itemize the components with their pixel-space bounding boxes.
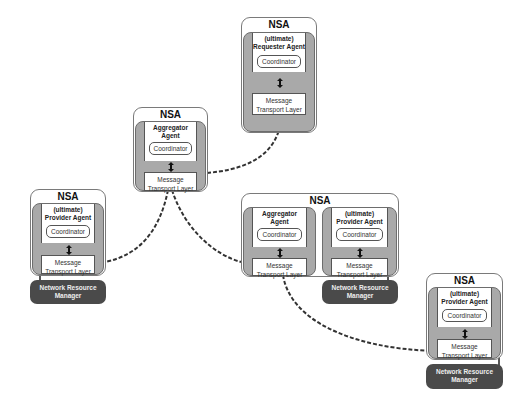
- mtl-line1: Message: [55, 259, 81, 266]
- provider-agent-right: (ultimate)Provider Agent Coordinator Mes…: [428, 287, 501, 359]
- mtl-line1: Message: [346, 262, 372, 269]
- link-aggregator-to-provider-left: [105, 190, 168, 262]
- link-aggregator-to-aggregator-mid: [172, 190, 241, 262]
- double-arrow-icon: [66, 245, 72, 255]
- agent-role: (ultimate)Provider Agent: [42, 206, 94, 222]
- mtl-line1: Message: [266, 97, 292, 104]
- nsa-requester: NSA (ultimate)Requester Agent Coordinato…: [241, 17, 317, 133]
- agent-role: (ultimate)Provider Agent: [332, 210, 387, 226]
- role-line2: Agent: [270, 218, 288, 225]
- message-transport-layer: MessageTransport Layer: [252, 258, 307, 276]
- coordinator: Coordinator: [257, 228, 302, 241]
- provider-agent: (ultimate)Provider Agent Coordinator Mes…: [32, 203, 104, 275]
- mtl-line1: Message: [157, 176, 183, 183]
- provider-agent-mid: (ultimate)Provider Agent Coordinator Mes…: [322, 207, 397, 276]
- coordinator: Coordinator: [46, 225, 90, 238]
- message-transport-layer: MessageTransport Layer: [144, 172, 197, 191]
- nsa-provider-right: NSA (ultimate)Provider Agent Coordinator…: [426, 273, 503, 360]
- double-arrow-icon: [277, 248, 283, 258]
- nrm-line2: Manager: [451, 376, 478, 383]
- requester-agent: (ultimate)Requester Agent Coordinator Me…: [243, 32, 315, 132]
- coordinator: Coordinator: [442, 309, 487, 322]
- message-transport-layer: MessageTransport Layer: [437, 339, 492, 358]
- double-arrow-icon: [168, 162, 174, 172]
- message-transport-layer: MessageTransport Layer: [41, 255, 95, 274]
- role-line1: (ultimate): [264, 35, 293, 42]
- aggregator-agent: AggregatorAgent Coordinator MessageTrans…: [135, 121, 206, 191]
- nsa-title: NSA: [242, 195, 398, 206]
- nsa-title: NSA: [242, 19, 316, 30]
- role-line1: (ultimate): [450, 290, 479, 297]
- nrm-line1: Network Resource: [436, 368, 493, 375]
- mtl-line2: Transport Layer: [148, 185, 194, 192]
- nrm-line2: Manager: [347, 292, 374, 299]
- coordinator: Coordinator: [257, 55, 301, 68]
- mtl-line2: Transport Layer: [337, 271, 383, 278]
- role-line2: Agent: [161, 132, 179, 139]
- double-arrow-icon: [277, 78, 283, 88]
- role-line1: Aggregator: [153, 124, 188, 131]
- agent-role: AggregatorAgent: [145, 124, 196, 140]
- agent-header: AggregatorAgent Coordinator: [252, 208, 307, 247]
- message-transport-layer: MessageTransport Layer: [252, 93, 306, 115]
- nsa-middle: NSA AggregatorAgent Coordinator MessageT…: [241, 193, 399, 277]
- agent-role: AggregatorAgent: [253, 210, 306, 226]
- network-resource-manager-right: Network ResourceManager: [426, 364, 503, 389]
- network-resource-manager-left: Network ResourceManager: [30, 280, 106, 304]
- role-line1: (ultimate): [345, 210, 374, 217]
- mtl-line2: Transport Layer: [442, 352, 488, 359]
- mtl-line1: Message: [266, 262, 292, 269]
- nsa-aggregator-top: NSA AggregatorAgent Coordinator MessageT…: [133, 107, 208, 192]
- nsa-title: NSA: [134, 109, 207, 120]
- role-line2: Provider Agent: [336, 218, 382, 225]
- network-resource-manager-mid: Network ResourceManager: [322, 280, 398, 304]
- nsa-title: NSA: [31, 191, 105, 202]
- nsa-title: NSA: [427, 275, 502, 286]
- aggregator-agent-mid: AggregatorAgent Coordinator MessageTrans…: [243, 207, 316, 276]
- role-line2: Requester Agent: [253, 43, 305, 50]
- double-arrow-icon: [357, 248, 363, 258]
- coordinator: Coordinator: [336, 228, 383, 241]
- agent-role: (ultimate)Provider Agent: [438, 290, 491, 306]
- role-line2: Provider Agent: [45, 214, 91, 221]
- mtl-line2: Transport Layer: [257, 271, 303, 278]
- nrm-line1: Network Resource: [331, 284, 388, 291]
- role-line1: (ultimate): [53, 206, 82, 213]
- double-arrow-icon: [462, 329, 468, 339]
- mtl-line2: Transport Layer: [45, 268, 91, 275]
- agent-header: (ultimate)Provider Agent Coordinator: [41, 204, 95, 243]
- agent-header: AggregatorAgent Coordinator: [144, 122, 197, 161]
- nsa-provider-left: NSA (ultimate)Provider Agent Coordinator…: [30, 189, 106, 276]
- agent-header: (ultimate)Requester Agent Coordinator: [252, 33, 306, 72]
- role-line1: Aggregator: [262, 210, 297, 217]
- message-transport-layer: MessageTransport Layer: [331, 258, 388, 276]
- agent-header: (ultimate)Provider Agent Coordinator: [437, 288, 492, 327]
- agent-role: (ultimate)Requester Agent: [253, 35, 305, 51]
- coordinator: Coordinator: [149, 142, 192, 155]
- mtl-line2: Transport Layer: [256, 106, 302, 113]
- nrm-line1: Network Resource: [39, 284, 96, 291]
- link-aggregator-to-requester: [207, 130, 279, 173]
- mtl-line1: Message: [451, 343, 477, 350]
- role-line2: Provider Agent: [441, 298, 487, 305]
- agent-header: (ultimate)Provider Agent Coordinator: [331, 208, 388, 247]
- nrm-line2: Manager: [55, 292, 82, 299]
